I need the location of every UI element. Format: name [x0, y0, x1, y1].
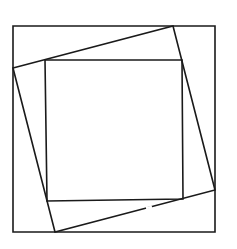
inner-square: [45, 60, 183, 201]
nested-squares-diagram: [0, 0, 237, 249]
tilted-square: [13, 26, 215, 232]
line-gap-artifact: [146, 207, 152, 208]
outer-square: [13, 26, 215, 232]
diagram-canvas: [0, 0, 237, 249]
